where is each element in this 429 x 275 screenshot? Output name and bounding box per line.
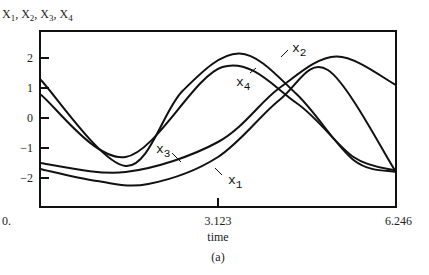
y-axis-ticks: 210−1−2 — [20, 51, 49, 185]
series-x2-line — [40, 53, 396, 172]
y-tick-label: 0 — [27, 111, 33, 125]
series-curves — [40, 53, 396, 185]
y-tick-label: 1 — [27, 81, 33, 95]
y-tick-label: 2 — [27, 51, 33, 65]
series-x3-label: x3 — [156, 142, 170, 160]
series-x1-label: x1 — [228, 173, 243, 191]
x-tick-label: 6.246 — [385, 214, 412, 228]
x-axis-title: time — [207, 230, 228, 244]
series-x4-line — [40, 65, 396, 170]
series-x2-label: x2 — [292, 41, 306, 59]
series-x2-leader — [281, 50, 288, 57]
y-axis-title-text: X1, X2, X3, X4 — [2, 7, 73, 23]
line-chart: X1, X2, X3, X4 210−1−2 0.3.1236.246 x1x2… — [0, 0, 429, 275]
x-axis-ticks: 0.3.1236.246 — [2, 198, 412, 228]
series-x1-leader — [215, 168, 222, 175]
series-x4-label: x4 — [236, 75, 251, 93]
y-tick-label: −2 — [20, 171, 33, 185]
series-labels: x1x2x3x4 — [156, 41, 306, 191]
series-x3-line — [40, 56, 396, 172]
x-tick-label: 3.123 — [205, 214, 232, 228]
figure-caption: (a) — [211, 250, 224, 264]
y-tick-label: −1 — [20, 141, 33, 155]
y-axis-title: X1, X2, X3, X4 — [2, 7, 73, 23]
series-x1-line — [40, 67, 396, 186]
x-tick-label: 0. — [2, 214, 11, 228]
